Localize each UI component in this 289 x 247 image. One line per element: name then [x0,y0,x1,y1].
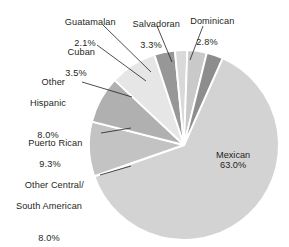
label-salvadoran-name: Salvadoran [133,19,180,29]
label-puerto-rican-name: Puerto Rican [28,138,82,148]
label-mexican-name: Mexican [216,150,250,160]
label-salvadoran: Salvadoran 3.3% [122,8,180,72]
label-other-central-south-pct: 8.0% [3,233,95,244]
label-other-central-south: Other Central/ South American 8.0% [3,169,95,247]
label-salvadoran-pct: 3.3% [122,40,180,51]
label-dominican-pct: 2.8% [178,37,236,48]
label-other-central-south-line1: Other Central/ [25,180,84,190]
pie-chart: Guatamalan 2.1% Salvadoran 3.3% Dominica… [0,0,289,247]
label-mexican-pct: 63.0% [220,160,246,170]
label-other-hispanic-line2: Hispanic [19,98,77,109]
label-dominican-name: Dominican [190,16,234,26]
label-cuban-name: Cuban [68,47,96,57]
label-guatamalan-name: Guatamalan [65,17,116,27]
label-other-hispanic-line1: Other [42,77,65,87]
label-puerto-rican-pct: 9.3% [9,159,91,170]
label-other-central-south-line2: South American [3,201,95,212]
label-mexican: Mexican 63.0% [197,139,259,181]
label-dominican: Dominican 2.8% [178,5,236,69]
